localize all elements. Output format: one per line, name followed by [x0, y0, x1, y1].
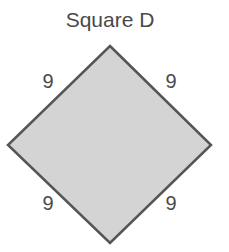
side-label-bottom-right: 9 [161, 192, 181, 215]
side-label-top-left: 9 [38, 70, 58, 93]
square-diagram [0, 0, 229, 252]
side-label-top-right: 9 [161, 70, 181, 93]
side-label-bottom-left: 9 [38, 192, 58, 215]
